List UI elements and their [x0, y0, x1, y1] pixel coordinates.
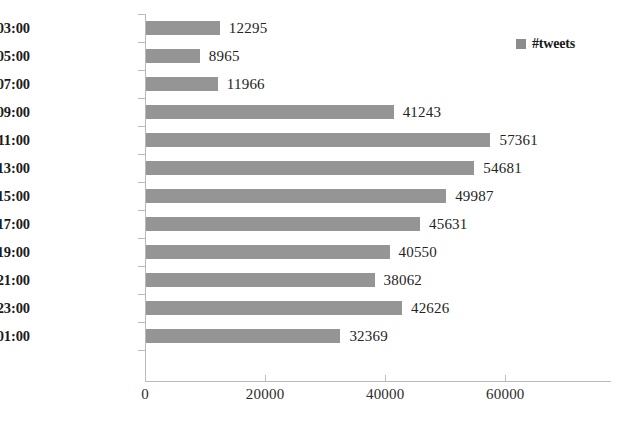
value-tick-label: 40000 [366, 386, 405, 403]
value-tick [505, 375, 506, 382]
bar-value-label: 49987 [455, 182, 494, 210]
bar-value-label: 32369 [349, 322, 388, 350]
bar-value-label: 38062 [384, 266, 423, 294]
category-label: 17:00-19:00 [0, 238, 30, 266]
category-label: 15:00-17:00 [0, 210, 30, 238]
bar [146, 105, 394, 119]
category-label: 03:00-05:00 [0, 42, 30, 70]
bar-value-label: 40550 [399, 238, 438, 266]
value-axis-line [145, 381, 611, 382]
value-tick-label: 0 [141, 386, 149, 403]
bar [146, 49, 200, 63]
bar [146, 273, 375, 287]
category-label: 05:00-07:00 [0, 70, 30, 98]
category-label: 11:00-13:00 [0, 154, 30, 182]
bar [146, 329, 340, 343]
category-label: 21:00-23:00 [0, 294, 30, 322]
bar-row: 15:00-17:0045631 [0, 210, 625, 238]
value-tick [145, 375, 146, 382]
bar [146, 161, 474, 175]
bar-value-label: 54681 [483, 154, 522, 182]
value-tick [385, 375, 386, 382]
value-tick-label: 60000 [486, 386, 525, 403]
bar-row: 23:00-01:0032369 [0, 322, 625, 350]
bar-value-label: 11966 [227, 70, 265, 98]
bar [146, 245, 390, 259]
bar-row: 17:00-19:0040550 [0, 238, 625, 266]
bar-value-label: 42626 [411, 294, 450, 322]
category-label: 13:00-15:00 [0, 182, 30, 210]
bar-row: 09:00-11:0057361 [0, 126, 625, 154]
category-tick [138, 350, 145, 351]
bar-row: 07:00-09:0041243 [0, 98, 625, 126]
bar-row: 13:00-15:0049987 [0, 182, 625, 210]
bar-value-label: 8965 [209, 42, 240, 70]
bar-row: 11:00-13:0054681 [0, 154, 625, 182]
category-label: 09:00-11:00 [0, 126, 30, 154]
legend: #tweets [516, 36, 575, 52]
bar-row: 05:00-07:0011966 [0, 70, 625, 98]
category-label: 07:00-09:00 [0, 98, 30, 126]
legend-swatch-tweets [516, 39, 526, 49]
bar [146, 217, 420, 231]
value-tick [265, 375, 266, 382]
bar-chart: 0200004000060000 01:00-03:001229503:00-0… [0, 0, 625, 424]
bar-value-label: 41243 [403, 98, 442, 126]
bar-row: 19:00-21:0038062 [0, 266, 625, 294]
category-label: 19:00-21:00 [0, 266, 30, 294]
legend-label-tweets: #tweets [532, 36, 575, 52]
bar-value-label: 45631 [429, 210, 468, 238]
bar [146, 189, 446, 203]
bar [146, 21, 220, 35]
bar [146, 133, 490, 147]
value-tick-label: 20000 [246, 386, 285, 403]
bar [146, 301, 402, 315]
bar [146, 77, 218, 91]
category-label: 23:00-01:00 [0, 322, 30, 350]
bar-row: 21:00-23:0042626 [0, 294, 625, 322]
category-label: 01:00-03:00 [0, 14, 30, 42]
plot-area: 0200004000060000 01:00-03:001229503:00-0… [0, 0, 625, 424]
bar-value-label: 57361 [499, 126, 538, 154]
bar-value-label: 12295 [229, 14, 268, 42]
